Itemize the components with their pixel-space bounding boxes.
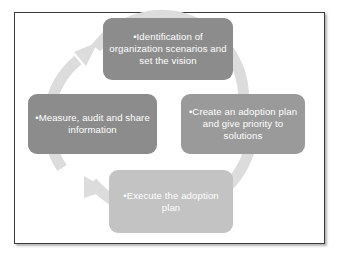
stage-box-identification[interactable]: •Identification of organization scenario…	[103, 18, 233, 80]
stage-label-measure: •Measure, audit and share information	[34, 112, 151, 135]
stage-label-adoption-plan: •Create an adoption plan and give priori…	[187, 106, 299, 141]
stage-box-execute[interactable]: •Execute the adoption plan	[109, 170, 233, 233]
stage-label-identification: •Identification of organization scenario…	[109, 31, 227, 66]
diagram-canvas: •Identification of organization scenario…	[0, 0, 341, 260]
stage-box-measure[interactable]: •Measure, audit and share information	[28, 94, 157, 154]
stage-label-execute: •Execute the adoption plan	[115, 190, 227, 213]
stage-box-adoption-plan[interactable]: •Create an adoption plan and give priori…	[181, 94, 305, 154]
